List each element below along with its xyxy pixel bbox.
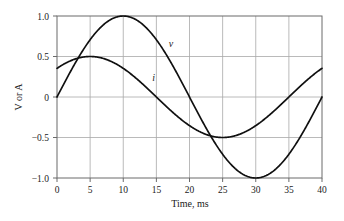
y-tick-label: 0 xyxy=(44,93,49,103)
tick-marks xyxy=(53,16,322,182)
y-tick-label: −1.0 xyxy=(32,174,49,184)
y-tick-label: 1.0 xyxy=(37,12,49,22)
sinusoid-waveform-chart: 0510152025303540 1.00.50−0.5−1.0 vi Time… xyxy=(0,0,344,221)
y-tick-label: 0.5 xyxy=(37,52,49,62)
x-tick-label: 40 xyxy=(317,185,327,195)
x-tick-label: 0 xyxy=(55,185,60,195)
x-tick-label: 10 xyxy=(119,185,129,195)
x-tick-label: 5 xyxy=(88,185,93,195)
y-axis-title: V or A xyxy=(13,83,24,111)
x-tick-label: 35 xyxy=(284,185,294,195)
x-axis-title: Time, ms xyxy=(171,198,209,209)
x-tick-label: 20 xyxy=(185,185,195,195)
x-axis-tick-labels: 0510152025303540 xyxy=(55,185,327,195)
y-axis-tick-labels: 1.00.50−0.5−1.0 xyxy=(32,12,49,184)
x-tick-label: 30 xyxy=(251,185,261,195)
chart-figure: 0510152025303540 1.00.50−0.5−1.0 vi Time… xyxy=(0,0,344,221)
x-tick-label: 25 xyxy=(218,185,228,195)
y-tick-label: −0.5 xyxy=(32,133,49,143)
x-tick-label: 15 xyxy=(152,185,162,195)
curve-label-v: v xyxy=(169,38,174,49)
curve-label-i: i xyxy=(152,72,155,83)
